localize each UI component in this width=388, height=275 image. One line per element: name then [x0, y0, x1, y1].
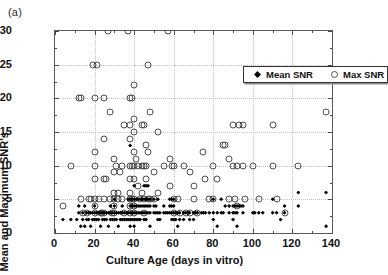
- data-point-max-snr: [249, 162, 256, 169]
- data-point-max-snr: [154, 189, 161, 196]
- y-tick-label: 5: [0, 192, 12, 204]
- data-point-mean-snr: [192, 218, 196, 222]
- max-snr-marker-icon: [331, 71, 338, 78]
- axis-tick: [174, 31, 175, 35]
- axis-tick: [55, 98, 59, 99]
- data-point-max-snr: [107, 108, 114, 115]
- data-point-max-snr: [239, 162, 246, 169]
- data-point-max-snr: [150, 169, 157, 176]
- y-tick-label: 0: [0, 226, 12, 238]
- axis-tick: [328, 199, 332, 200]
- plot-area: [55, 31, 332, 233]
- legend-entry-mean-snr: Mean SNR: [254, 69, 313, 80]
- axis-tick: [75, 231, 76, 233]
- data-point-max-snr: [91, 162, 98, 169]
- data-point-max-snr: [239, 122, 246, 129]
- data-point-mean-snr: [261, 211, 265, 215]
- axis-tick: [253, 229, 254, 233]
- data-point-mean-snr: [148, 224, 152, 228]
- panel-label: (a): [8, 6, 22, 18]
- data-point-mean-snr: [120, 204, 124, 208]
- axis-tick: [328, 98, 332, 99]
- x-tick-label: 0: [34, 237, 74, 249]
- chart-legend: Mean SNR Max SNR: [243, 66, 388, 83]
- y-tick-label: 10: [0, 159, 12, 171]
- legend-label-mean-snr: Mean SNR: [266, 69, 313, 80]
- x-tick-label: 100: [232, 237, 272, 249]
- x-tick-label: 60: [153, 237, 193, 249]
- axis-tick: [330, 48, 332, 49]
- data-point-max-snr: [202, 176, 209, 183]
- data-point-mean-snr: [215, 224, 219, 228]
- axis-tick: [328, 65, 332, 66]
- data-point-max-snr: [241, 196, 248, 203]
- data-point-mean-snr: [69, 218, 73, 222]
- data-point-max-snr: [144, 61, 151, 68]
- data-point-max-snr: [180, 162, 187, 169]
- data-point-max-snr: [131, 129, 138, 136]
- axis-tick: [213, 229, 214, 233]
- axis-tick: [95, 229, 96, 233]
- data-point-mean-snr: [324, 191, 328, 195]
- data-point-mean-snr: [89, 224, 93, 228]
- data-point-max-snr: [91, 95, 98, 102]
- axis-tick: [174, 229, 175, 233]
- axis-tick: [273, 231, 274, 233]
- axis-tick: [292, 31, 293, 35]
- axis-tick: [55, 65, 59, 66]
- data-point-max-snr: [170, 162, 177, 169]
- data-point-mean-snr: [275, 211, 279, 215]
- axis-tick: [292, 229, 293, 233]
- axis-tick: [55, 166, 59, 167]
- legend-label-max-snr: Max SNR: [343, 69, 384, 80]
- axis-tick: [55, 115, 57, 116]
- gridline-vertical: [253, 31, 254, 233]
- data-point-max-snr: [131, 81, 138, 88]
- data-point-max-snr: [323, 108, 330, 115]
- gridline-horizontal: [55, 132, 332, 133]
- data-point-mean-snr: [182, 218, 186, 222]
- axis-tick: [328, 233, 332, 234]
- axis-tick: [330, 115, 332, 116]
- axis-tick: [134, 229, 135, 233]
- data-point-max-snr: [146, 108, 153, 115]
- axis-tick: [134, 31, 135, 35]
- data-point-mean-snr: [81, 218, 85, 222]
- data-point-max-snr: [77, 196, 84, 203]
- axis-tick: [55, 233, 59, 234]
- axis-tick: [55, 199, 59, 200]
- data-point-max-snr: [131, 115, 138, 122]
- data-point-max-snr: [255, 196, 262, 203]
- data-point-max-snr: [295, 162, 302, 169]
- axis-tick: [330, 82, 332, 83]
- axis-tick: [55, 149, 57, 150]
- axis-tick: [75, 31, 76, 33]
- axis-tick: [312, 231, 313, 233]
- axis-tick: [154, 231, 155, 233]
- data-point-max-snr: [91, 149, 98, 156]
- data-point-max-snr: [186, 169, 193, 176]
- data-point-mean-snr: [128, 224, 132, 228]
- plot-frame: Mean SNR Max SNR: [54, 30, 333, 234]
- data-point-mean-snr: [211, 211, 215, 215]
- data-point-mean-snr: [83, 224, 87, 228]
- y-tick-label: 20: [0, 91, 12, 103]
- axis-tick: [233, 31, 234, 33]
- axis-tick: [55, 229, 56, 233]
- data-point-max-snr: [166, 182, 173, 189]
- data-point-max-snr: [143, 162, 150, 169]
- data-point-mean-snr: [219, 197, 223, 201]
- mean-snr-marker-icon: [254, 71, 261, 78]
- y-tick-label: 25: [0, 58, 12, 70]
- gridline-vertical: [292, 31, 293, 233]
- axis-tick: [114, 31, 115, 33]
- data-point-mean-snr: [188, 218, 192, 222]
- data-point-mean-snr: [116, 224, 120, 228]
- data-point-max-snr: [101, 95, 108, 102]
- data-point-max-snr: [210, 162, 217, 169]
- axis-tick: [95, 31, 96, 35]
- axis-tick: [253, 31, 254, 35]
- data-point-mean-snr: [176, 224, 180, 228]
- axis-tick: [233, 231, 234, 233]
- data-point-mean-snr: [61, 218, 65, 222]
